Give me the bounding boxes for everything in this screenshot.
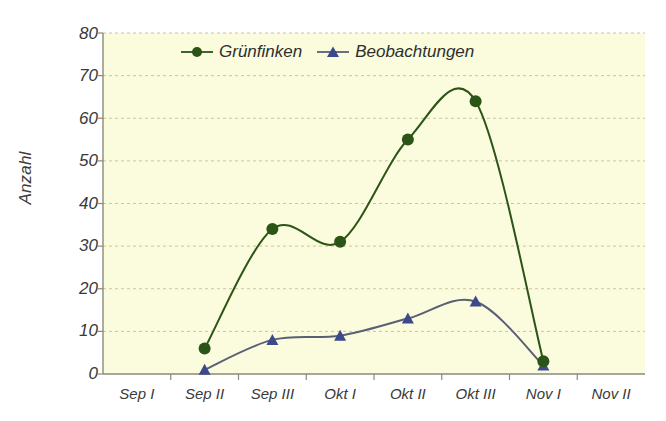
data-point-marker bbox=[537, 355, 549, 367]
data-point-marker bbox=[199, 342, 211, 354]
data-point-marker bbox=[334, 236, 346, 248]
y-axis-ticks bbox=[97, 33, 103, 374]
circle-marker-icon bbox=[180, 45, 214, 59]
plot-area bbox=[0, 0, 666, 421]
legend-label: Grünfinken bbox=[219, 42, 302, 62]
data-point-marker bbox=[470, 95, 482, 107]
chart-legend: Grünfinken Beobachtungen bbox=[180, 42, 474, 62]
x-axis-ticks bbox=[171, 374, 578, 380]
legend-label: Beobachtungen bbox=[355, 42, 474, 62]
line-chart: Anzahl 80 70 60 50 40 30 20 10 0 Sep ISe… bbox=[0, 0, 666, 421]
data-point-marker bbox=[402, 134, 414, 146]
triangle-marker-icon bbox=[316, 45, 350, 59]
legend-item-gruenfinken: Grünfinken bbox=[180, 42, 302, 62]
x-tick-label: Nov II bbox=[561, 386, 661, 401]
legend-item-beobachtungen: Beobachtungen bbox=[316, 42, 474, 62]
data-point-marker bbox=[266, 223, 278, 235]
